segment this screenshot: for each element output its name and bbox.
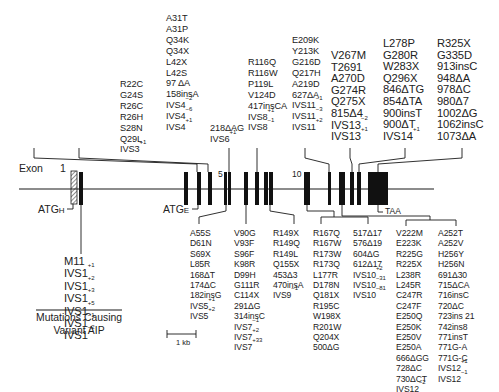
exon-2: [79, 172, 83, 205]
mutation-item: G24S: [120, 90, 146, 101]
mutation-item: H256Y: [438, 249, 474, 259]
mutation-list-exon8: R116QR116WP119LV124D417insCAIVS8+1IVS8−1: [248, 57, 287, 133]
mutation-list-exon13: V267MT2691A270DG274RQ275X815Δ4IVS13−2IVS…: [331, 50, 368, 143]
mutation-list-exon3: R22CG24SR26CR26HS28NQ29LIVS3+1: [120, 79, 146, 155]
mutation-item: 691Δ30: [438, 270, 474, 280]
splice-offset: −2: [361, 115, 368, 121]
connector-exon9: [270, 205, 294, 224]
mutation-item: R116W: [248, 68, 287, 79]
splice-offset: +1: [413, 126, 420, 132]
splice-offset: +1: [88, 262, 95, 268]
mutation-item: C114X: [234, 290, 265, 300]
mutation-item: 97 ΔA: [166, 78, 199, 89]
mutation-item: 715ΔCA: [438, 280, 474, 290]
connector-exon11: [305, 148, 329, 172]
splice-offset: −1: [268, 117, 275, 123]
atg-h-label: ATGH: [38, 203, 65, 215]
splice-offset: +2: [252, 327, 259, 333]
splice-offset: +2: [376, 265, 383, 271]
mutation-list-exon5: A55SD61NS69XL85R168ΔT174ΔC182insGIVS5+1I…: [190, 228, 221, 322]
mutation-item: IVS8−1: [248, 122, 287, 133]
mutation-item: G111R: [234, 280, 265, 290]
mutation-item: A31P: [166, 24, 199, 35]
splice-offset: +1: [140, 139, 147, 145]
mutation-item: V222M: [396, 228, 429, 238]
mutation-item: Q34X: [166, 46, 199, 57]
exon-9: [269, 172, 273, 205]
mutation-item: IVS9−1: [273, 290, 303, 300]
mutation-item: 666ΔGG: [396, 353, 429, 363]
mutation-item: IVS13+1: [331, 131, 368, 143]
mutation-item: 980Δ7: [437, 96, 483, 108]
mutation-item: W198X: [313, 311, 341, 321]
connector-exon5: [199, 205, 226, 224]
mutation-item: 517Δ17: [353, 228, 386, 238]
mutation-item: Q181X: [313, 290, 341, 300]
mutation-item: R325X: [437, 38, 483, 50]
atg-e-subscript: E: [184, 206, 189, 215]
mutation-item: 291ΔG: [234, 301, 265, 311]
splice-offset: −2: [186, 95, 193, 101]
mutation-item: D178N: [313, 280, 341, 290]
splice-offset: −81: [376, 285, 386, 291]
mutation-item: S96F: [234, 249, 265, 259]
mutation-item: 168ΔT: [190, 270, 221, 280]
scale-bar-label: 1 kb: [176, 338, 190, 347]
mutation-item: Q34K: [166, 35, 199, 46]
mutation-item: IVS6+1: [210, 134, 244, 145]
mutation-list-exon9: R149XR149QR149LQ155X453Δ3470insAIVS9−1: [273, 228, 303, 301]
atg-h-bracket: [67, 204, 73, 209]
mutation-item: 771G-A: [438, 342, 474, 352]
mutation-item: Q204X: [313, 332, 341, 342]
exon-6: [228, 172, 231, 205]
exon-15: [368, 172, 388, 205]
mutation-item: IVS3+1: [120, 144, 146, 155]
mutation-item: 174ΔC: [190, 280, 221, 290]
mutation-item: IVS12+1: [438, 363, 474, 373]
mutation-item: E250A: [396, 342, 429, 352]
exon-11: [328, 172, 331, 205]
mutation-item: L85R: [190, 259, 221, 269]
splice-offset: −2: [88, 324, 95, 330]
mutation-item: 771G-C: [438, 353, 474, 363]
mutation-item: V90G: [234, 228, 265, 238]
mutation-item: 854ΔTA: [383, 96, 424, 108]
splice-offset: −1: [461, 369, 468, 375]
exon-number-5: 5: [218, 169, 223, 179]
mutation-item: 742ins8: [438, 322, 474, 332]
mutation-item: 604ΔG: [353, 249, 386, 259]
mutation-item: E250V: [396, 332, 429, 342]
mutation-item: D99H: [234, 270, 265, 280]
mutation-item: E250Q: [396, 311, 429, 321]
connector-exon10: [307, 205, 334, 217]
connector-exon10-split: [321, 217, 368, 224]
mutation-item: IVS10−81: [353, 290, 386, 300]
atg-h-subscript: H: [59, 206, 65, 215]
mutation-item: IVS12−2: [396, 384, 429, 392]
splice-offset: −2: [419, 379, 426, 385]
splice-offset: +1: [461, 358, 468, 364]
mutation-item: D61N: [190, 238, 221, 248]
mutation-item: R26C: [120, 101, 146, 112]
connector-exon14: [359, 148, 405, 172]
exon-1-hatched: [71, 171, 77, 204]
splice-offset: +1: [186, 117, 193, 123]
exon-5: [224, 172, 227, 205]
mutation-item: Q217H: [292, 68, 323, 79]
mutation-item: 723ins 21: [438, 311, 474, 321]
stop-codon-label: TAA: [385, 206, 401, 216]
mutation-item: 728ΔC: [396, 363, 429, 373]
atg-e-bracket: [192, 205, 198, 209]
mutation-item: H256N: [438, 259, 474, 269]
mutation-list-exon10a: R167QR167WR173WR173QL177RD178NQ181XR195C…: [313, 228, 341, 353]
mutation-item: E209K: [292, 35, 323, 46]
exon-5a: [208, 172, 212, 205]
mutation-item: C247R: [396, 290, 429, 300]
mutation-item: 453Δ3: [273, 270, 303, 280]
mutation-item: R225X: [396, 259, 429, 269]
mutation-list-exon11: E209KY213KG216DQ217HA219D627ΔAIVS11−1IVS…: [292, 35, 323, 133]
mutation-item: R149Q: [273, 238, 303, 248]
mutation-item: V267M: [331, 50, 368, 62]
splice-offset: −1: [316, 95, 323, 101]
mutation-list-exon12b: A252TA252VH256YH256N691Δ30715ΔCA716insC7…: [438, 228, 474, 384]
